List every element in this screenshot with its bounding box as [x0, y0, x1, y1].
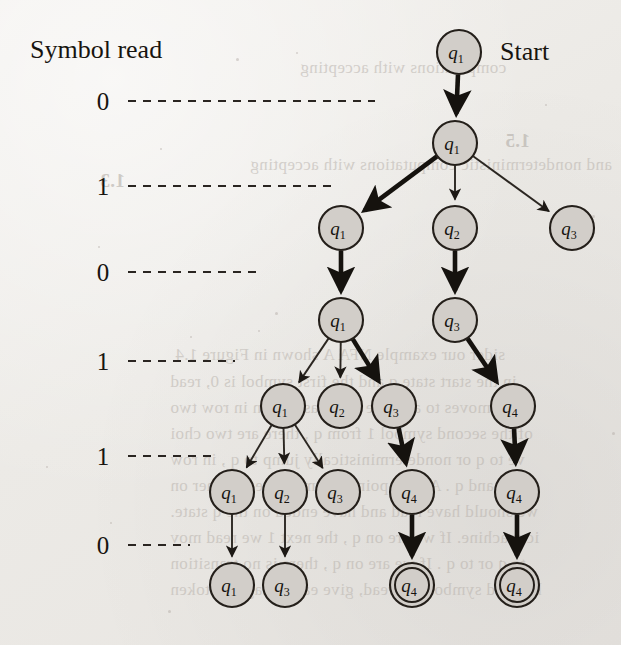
state-node-q1: q1 [437, 30, 481, 74]
edge-n6-to-n10 [468, 339, 497, 382]
state-node-q3: q3 [372, 384, 416, 428]
state-node-q1: q1 [319, 206, 363, 250]
edge-n1-to-n2 [365, 156, 437, 210]
state-node-q1: q1 [319, 298, 363, 342]
state-node-q2: q2 [263, 470, 307, 514]
symbol-label-2: 0 [97, 259, 110, 286]
state-node-q2: q2 [433, 206, 477, 250]
edge-n5-to-n7 [299, 339, 328, 383]
start-label: Start [500, 37, 550, 66]
state-node-q4-accept: q4 [390, 563, 434, 607]
edge-n7-to-n13 [295, 425, 323, 468]
symbol-label-0: 0 [97, 88, 110, 115]
state-nodes: q1q1q1q2q3q1q3q1q2q3q4q1q2q3q4q4q1q3q4q4 [210, 30, 594, 607]
state-node-q1: q1 [210, 470, 254, 514]
symbol-label-5: 0 [97, 532, 110, 559]
edge-n5-to-n9 [353, 339, 379, 381]
edge-n0-to-n1 [456, 74, 458, 113]
state-node-q4: q4 [390, 470, 434, 514]
state-node-q2: q2 [318, 384, 362, 428]
symbol-label-1: 1 [97, 173, 110, 200]
edge-n7-to-n12 [284, 428, 285, 463]
state-node-q1: q1 [433, 121, 477, 165]
state-node-q4: q4 [491, 384, 535, 428]
state-node-q4: q4 [495, 470, 539, 514]
state-node-q3: q3 [550, 206, 594, 250]
state-node-q1: q1 [261, 384, 305, 428]
computation-tree-diagram: 010110 q1q1q1q2q3q1q3q1q2q3q4q1q2q3q4q4q… [0, 0, 621, 645]
state-node-q3: q3 [316, 470, 360, 514]
state-node-q1: q1 [210, 563, 254, 607]
symbol-label-3: 1 [97, 348, 110, 375]
symbol-read-heading: Symbol read [30, 35, 162, 64]
edge-n10-to-n15 [514, 428, 516, 462]
symbol-label-4: 1 [97, 443, 110, 470]
state-node-q3: q3 [263, 563, 307, 607]
edge-n1-to-n4 [473, 156, 549, 211]
edge-n9-to-n14 [399, 428, 406, 463]
state-node-q3: q3 [433, 298, 477, 342]
edge-n7-to-n11 [247, 425, 272, 467]
state-node-q4-accept: q4 [495, 563, 539, 607]
